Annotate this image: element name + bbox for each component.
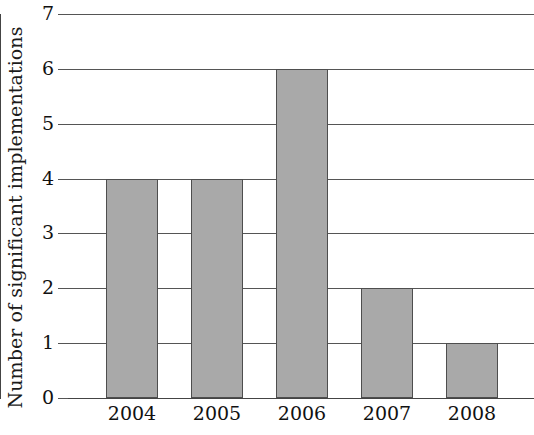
gridline [68,14,534,15]
y-axis-tick-mark [58,233,68,234]
y-axis-tick-label-text: 6 [42,59,54,78]
bar-2005 [191,179,243,398]
y-axis-tick-label-text: 0 [42,388,54,407]
y-axis-tick-label-text: 4 [42,169,54,188]
y-axis-line [0,14,1,399]
y-axis-tick-label-text: 3 [42,223,54,242]
y-axis-tick-mark [58,69,68,70]
x-axis-tick-label: 2004 [92,403,172,424]
y-axis-tick-mark [58,288,68,289]
y-axis-tick-label-text: 5 [42,114,54,133]
bar-2004 [106,179,158,398]
bar-2006 [276,69,328,398]
x-axis-tick-label: 2006 [262,403,342,424]
x-axis-tick-label: 2008 [432,403,512,424]
bar-2008 [446,343,498,398]
y-axis-tick-mark [58,343,68,344]
y-axis-tick-label-text: 7 [42,4,54,23]
y-axis-tick-mark [58,398,68,399]
y-axis-tick-mark [58,179,68,180]
bar-2007 [361,288,413,398]
y-axis-tick-label-text: 1 [42,333,54,352]
x-axis-tick-label: 2007 [347,403,427,424]
y-axis-tick-mark [58,124,68,125]
y-axis-tick-mark [58,14,68,15]
bar-chart-figure: Number of significant implementations 01… [0,0,534,435]
y-axis-tick-label-text: 2 [42,278,54,297]
y-axis-title: Number of significant implementations [0,0,30,435]
x-axis-line [58,398,534,399]
x-axis-tick-label: 2005 [177,403,257,424]
